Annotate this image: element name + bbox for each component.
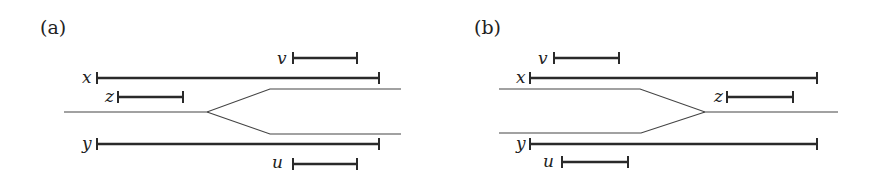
panel-b-label: (b) xyxy=(474,16,501,38)
panel-a-interval-z: z xyxy=(104,86,183,106)
panel-b-interval-x: x xyxy=(516,67,817,87)
interval-label-u: u xyxy=(543,151,554,171)
panel-a-interval-y: y xyxy=(81,133,379,153)
panel-b: (b) v x z y xyxy=(474,16,838,171)
interval-label-y: y xyxy=(515,133,526,153)
panel-b-track-lower xyxy=(499,112,705,133)
panel-a-track-upper xyxy=(64,89,401,112)
panel-b-interval-z: z xyxy=(713,86,793,106)
interval-label-u: u xyxy=(272,152,283,172)
interval-label-x: x xyxy=(82,67,92,87)
panel-b-track-upper xyxy=(499,89,838,112)
panel-a-interval-v: v xyxy=(277,48,357,68)
interval-label-z: z xyxy=(713,86,724,106)
panel-b-interval-y: y xyxy=(515,133,817,153)
interval-label-v: v xyxy=(277,48,287,68)
panel-a-interval-x: x xyxy=(82,67,379,87)
interval-label-x: x xyxy=(516,67,526,87)
interval-label-v: v xyxy=(538,48,548,68)
figure-canvas: (a) v x z y xyxy=(0,0,875,184)
panel-b-interval-v: v xyxy=(538,48,619,68)
panel-a-label: (a) xyxy=(40,16,66,38)
panel-a: (a) v x z y xyxy=(40,16,401,172)
panel-a-track-lower xyxy=(207,112,401,134)
interval-label-z: z xyxy=(104,86,115,106)
interval-label-y: y xyxy=(81,133,92,153)
panel-a-interval-u: u xyxy=(272,152,357,172)
panel-b-interval-u: u xyxy=(543,151,628,171)
